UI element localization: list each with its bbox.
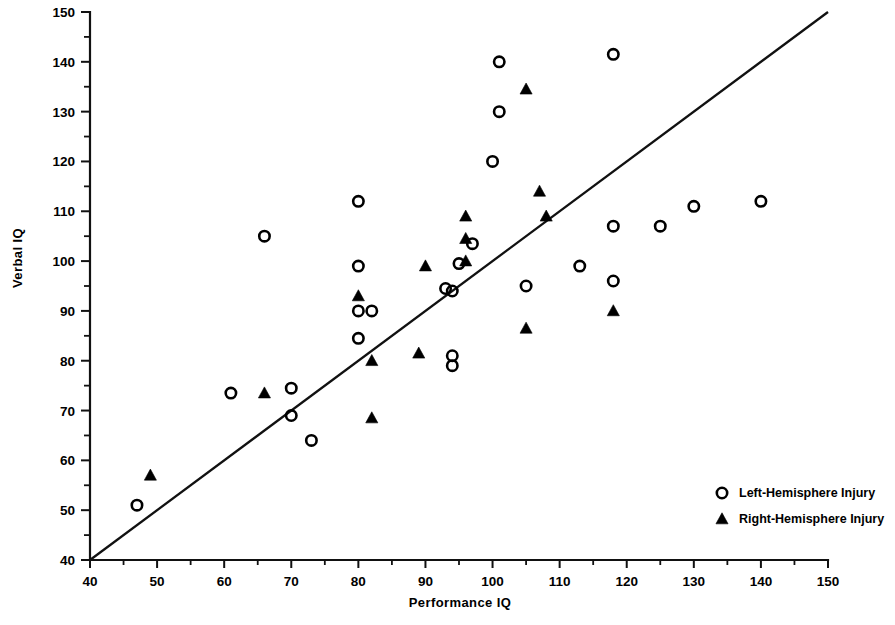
data-point-triangle	[366, 412, 378, 423]
y-tick-label: 110	[53, 204, 75, 219]
x-axis-title: Performance IQ	[409, 595, 511, 610]
x-tick-label: 50	[150, 574, 165, 589]
data-point-circle	[756, 196, 766, 206]
x-tick-label: 60	[217, 574, 232, 589]
series-1	[132, 49, 766, 510]
data-point-triangle	[366, 355, 378, 366]
data-point-triangle	[144, 469, 156, 480]
y-tick-label: 40	[60, 553, 75, 568]
data-point-triangle	[419, 260, 431, 271]
x-tick-label: 80	[351, 574, 366, 589]
scatter-chart: 4050607080901001101201301401504050607080…	[0, 0, 895, 625]
data-point-circle	[521, 281, 531, 291]
y-tick-label: 120	[52, 154, 75, 169]
x-tick-label: 150	[817, 574, 840, 589]
y-tick-label: 60	[60, 453, 75, 468]
y-tick-label: 140	[52, 55, 75, 70]
data-point-triangle	[520, 83, 532, 94]
x-tick-label: 100	[481, 574, 504, 589]
data-point-circle	[494, 57, 504, 67]
data-point-circle	[367, 306, 377, 316]
y-axis-title: Verbal IQ	[10, 228, 25, 288]
plot-canvas: 4050607080901001101201301401504050607080…	[0, 0, 895, 625]
data-point-circle	[575, 261, 585, 271]
x-tick-label: 90	[418, 574, 433, 589]
data-point-triangle	[258, 387, 270, 398]
legend-label: Left-Hemisphere Injury	[739, 486, 875, 500]
data-point-circle	[353, 261, 363, 271]
data-point-circle	[259, 231, 269, 241]
data-point-triangle	[520, 322, 532, 333]
data-point-circle	[286, 383, 296, 393]
data-points	[132, 49, 766, 510]
identity-line	[90, 12, 828, 560]
data-point-circle	[306, 435, 316, 445]
x-tick-label: 70	[284, 574, 299, 589]
data-point-triangle	[352, 290, 364, 301]
y-tick-label: 130	[52, 105, 75, 120]
data-point-circle	[132, 500, 142, 510]
y-tick-label: 50	[60, 503, 75, 518]
x-tick-label: 110	[549, 574, 571, 589]
x-tick-label: 120	[615, 574, 638, 589]
x-tick-label: 140	[750, 574, 773, 589]
data-point-circle	[608, 276, 618, 286]
data-point-triangle	[607, 305, 619, 316]
legend-label: Right-Hemisphere Injury	[739, 512, 884, 526]
y-tick-label: 90	[60, 304, 75, 319]
data-point-circle	[689, 201, 699, 211]
y-tick-label: 70	[60, 404, 75, 419]
x-tick-label: 40	[82, 574, 97, 589]
data-point-circle	[487, 156, 497, 166]
data-point-triangle	[533, 185, 545, 196]
identity-reference-line	[90, 12, 828, 560]
data-point-circle	[353, 306, 363, 316]
x-tick-label: 130	[683, 574, 706, 589]
data-point-triangle	[540, 210, 552, 221]
legend-marker-triangle	[716, 513, 728, 524]
y-tick-label: 80	[60, 354, 75, 369]
y-tick-label: 150	[52, 5, 75, 20]
legend-marker-circle	[717, 488, 727, 498]
data-point-circle	[353, 333, 363, 343]
data-point-circle	[608, 49, 618, 59]
data-point-triangle	[413, 347, 425, 358]
data-point-circle	[608, 221, 618, 231]
chart-legend: Left-Hemisphere InjuryRight-Hemisphere I…	[716, 486, 884, 526]
data-point-circle	[655, 221, 665, 231]
data-point-triangle	[460, 210, 472, 221]
y-tick-label: 100	[52, 254, 75, 269]
data-point-circle	[226, 388, 236, 398]
data-point-circle	[494, 106, 504, 116]
series-2	[144, 83, 619, 480]
data-point-circle	[353, 196, 363, 206]
